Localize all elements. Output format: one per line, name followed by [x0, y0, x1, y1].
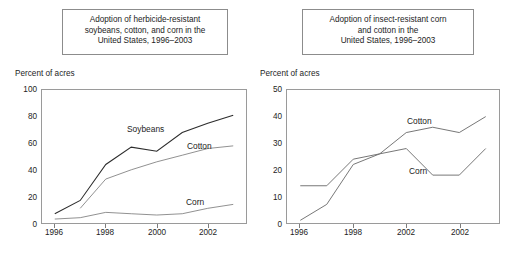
right-chart-title-box: Adoption of insect-resistant corn and co… [302, 9, 474, 55]
right-title-line-3: United States, 1996–2003 [309, 36, 467, 47]
left-series-label-soybeans: Soybeans [127, 124, 164, 134]
right-ytick-label-20: 20 [258, 166, 282, 175]
chart-page: Adoption of herbicide-resistant soybeans… [0, 0, 514, 261]
left-ytick-label-80: 80 [13, 112, 37, 121]
left-xtick-label-1996: 1996 [34, 228, 74, 237]
left-chart-title-box: Adoption of herbicide-resistant soybeans… [62, 9, 228, 55]
right-title-line-2: and cotton in the [309, 26, 467, 37]
right-plot-svg [287, 90, 499, 223]
left-series-label-corn: Corn [186, 197, 204, 207]
left-ytick-label-40: 40 [13, 166, 37, 175]
right-chart-panel: Adoption of insect-resistant corn and co… [257, 0, 514, 261]
right-xtick-label-3: 2002 [386, 228, 426, 237]
left-chart-panel: Adoption of herbicide-resistant soybeans… [0, 0, 257, 261]
left-xtick-label-2000: 2000 [137, 228, 177, 237]
left-plot-area [41, 89, 247, 224]
left-ytick-label-60: 60 [13, 139, 37, 148]
left-plot-svg [42, 90, 246, 223]
right-ytick-label-40: 40 [258, 112, 282, 121]
right-series-label-cotton: Cotton [407, 116, 432, 126]
left-ytick-label-20: 20 [13, 193, 37, 202]
right-xtick-label-2: 1998 [333, 228, 373, 237]
left-xtick-label-2002: 2002 [188, 228, 228, 237]
right-y-axis-caption: Percent of acres [260, 69, 320, 78]
left-title-line-2: soybeans, cotton, and corn in the [69, 26, 221, 37]
right-ytick-label-30: 30 [258, 139, 282, 148]
left-xtick-label-1998: 1998 [85, 228, 125, 237]
right-xtick-label-1: 1996 [279, 228, 319, 237]
right-ytick-label-10: 10 [258, 193, 282, 202]
left-ytick-label-100: 100 [13, 85, 37, 94]
left-title-line-3: United States, 1996–2003 [69, 36, 221, 47]
right-plot-area [286, 89, 500, 224]
left-series-label-cotton: Cotton [187, 141, 212, 151]
left-title-line-1: Adoption of herbicide-resistant [69, 15, 221, 26]
series-line-cotton [80, 146, 233, 208]
right-series-label-corn: Corn [409, 166, 427, 176]
right-ytick-label-50: 50 [258, 85, 282, 94]
left-y-axis-caption: Percent of acres [15, 69, 75, 78]
right-xtick-label-4: 2002 [440, 228, 480, 237]
right-title-line-1: Adoption of insect-resistant corn [309, 15, 467, 26]
